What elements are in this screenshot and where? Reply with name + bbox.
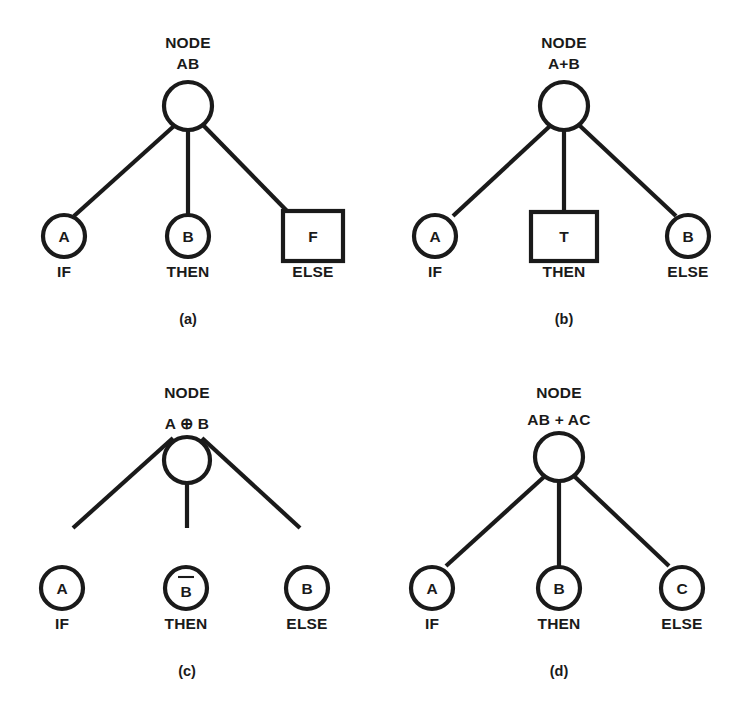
panel-d-leaf-if-symbol: A xyxy=(426,580,437,597)
panel-a-caption: (a) xyxy=(179,311,197,327)
panel-c-role-else: ELSE xyxy=(286,615,327,632)
panel-c-leaf-else-symbol: B xyxy=(301,580,312,597)
panel-a-role-if: IF xyxy=(57,263,71,280)
panel-d-node-expression: AB + AC xyxy=(527,411,590,428)
panel-c-edge-else xyxy=(202,438,300,528)
panel-c-leaf-if-symbol: A xyxy=(56,580,67,597)
panel-a-leaf-then-symbol: B xyxy=(182,228,193,245)
panel-a-root-node[interactable] xyxy=(164,82,212,130)
panel-d-expr-part-2: C xyxy=(579,411,590,428)
panel-d-role-then: THEN xyxy=(538,615,581,632)
panel-b: NODE A+B A IF T THEN B ELSE (b) xyxy=(376,0,752,362)
panel-d: NODE AB + AC A IF B THEN C ELSE (d) xyxy=(376,350,752,712)
panel-a-role-else: ELSE xyxy=(292,263,333,280)
panel-b-role-else: ELSE xyxy=(667,263,708,280)
panel-b-leaf-else-symbol: B xyxy=(682,228,693,245)
panel-d-edge-else xyxy=(574,476,669,566)
panel-b-edge-if xyxy=(453,126,550,216)
panel-d-role-if: IF xyxy=(425,615,439,632)
panel-d-expr-part-0: AB + xyxy=(527,411,567,428)
panel-b-node-title: NODE xyxy=(541,34,587,51)
panel-c-node-expression: A ⊕ B xyxy=(165,415,209,432)
panel-a-role-then: THEN xyxy=(167,263,210,280)
panel-d-leaf-else-symbol: C xyxy=(676,580,687,597)
figure-root: NODE AB A IF B THEN F ELSE (a) NODE A+B xyxy=(0,0,752,725)
panel-c-root-node[interactable] xyxy=(164,437,210,483)
panel-b-role-then: THEN xyxy=(543,263,586,280)
panel-a-edge-if xyxy=(74,126,174,216)
panel-b-role-if: IF xyxy=(428,263,442,280)
panel-d-root-node[interactable] xyxy=(535,433,583,481)
panel-a-leaf-if-symbol: A xyxy=(58,228,69,245)
panel-a-node-expression: AB xyxy=(177,55,200,72)
panel-c: NODE A ⊕ B A IF B THEN B ELSE (c) xyxy=(0,350,376,712)
panel-a-edge-else xyxy=(203,125,288,212)
panel-b-leaf-then-symbol: T xyxy=(559,228,569,245)
panel-c-leaf-then-symbol: B xyxy=(180,583,191,600)
panel-d-caption: (d) xyxy=(550,663,569,679)
panel-a-leaf-else-symbol: F xyxy=(308,228,317,245)
panel-c-role-then: THEN xyxy=(165,615,208,632)
panel-c-role-if: IF xyxy=(55,615,69,632)
panel-b-root-node[interactable] xyxy=(540,82,588,130)
panel-c-edge-if xyxy=(73,438,173,528)
panel-b-node-expression: A+B xyxy=(548,55,580,72)
panel-c-node-title: NODE xyxy=(164,384,210,401)
panel-a: NODE AB A IF B THEN F ELSE (a) xyxy=(0,0,376,362)
panel-c-caption: (c) xyxy=(178,663,196,679)
panel-d-edge-if xyxy=(446,476,545,566)
panel-b-caption: (b) xyxy=(555,311,574,327)
panel-d-role-else: ELSE xyxy=(661,615,702,632)
panel-b-edge-else xyxy=(579,125,676,216)
panel-d-expr-part-1: A xyxy=(568,411,579,428)
panel-d-node-title: NODE xyxy=(536,384,582,401)
panel-b-leaf-if-symbol: A xyxy=(429,228,440,245)
panel-a-node-title: NODE xyxy=(165,34,211,51)
panel-d-leaf-then-symbol: B xyxy=(553,580,564,597)
